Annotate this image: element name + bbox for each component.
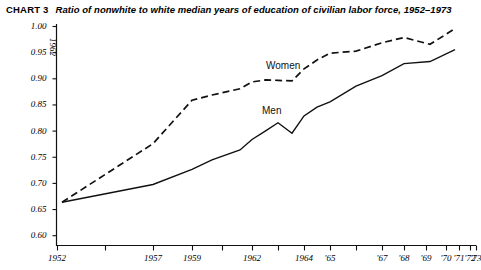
series-line-women xyxy=(62,29,455,203)
x-tick-label: '70 xyxy=(441,253,452,263)
x-tick-label: 1957 xyxy=(144,253,162,263)
y-tick-label: 0.75 xyxy=(17,152,47,162)
y-tick-label: 0.65 xyxy=(17,204,47,214)
x-axis-ticks xyxy=(58,246,477,251)
x-tick-label: '65 xyxy=(325,253,336,263)
plot-area: 1.000.950.900.850.800.750.700.650.60 195… xyxy=(0,0,481,270)
y-tick-label: 1.00 xyxy=(17,21,47,31)
x-tick-label: '71 xyxy=(454,253,465,263)
series-label-men: Men xyxy=(262,105,281,116)
x-tick-label: 1964 xyxy=(295,253,313,263)
x-tick-label: '69 xyxy=(421,253,432,263)
chart-canvas xyxy=(0,0,481,270)
chart-figure: CHART 3 Ratio of nonwhite to white media… xyxy=(0,0,481,270)
x-tick-label: '68 xyxy=(399,253,410,263)
series-line-men xyxy=(62,50,455,203)
x-tick-label: '67 xyxy=(377,253,388,263)
rotated-year-annotation: 1962 xyxy=(48,38,58,56)
y-tick-label: 0.80 xyxy=(17,126,47,136)
y-tick-label: 0.95 xyxy=(17,47,47,57)
y-tick-label: 0.90 xyxy=(17,73,47,83)
y-tick-label: 0.60 xyxy=(17,230,47,240)
series-label-women: Women xyxy=(266,60,300,71)
y-tick-label: 0.85 xyxy=(17,99,47,109)
axis-group xyxy=(57,24,477,246)
y-tick-label: 0.70 xyxy=(17,178,47,188)
x-tick-label: 1952 xyxy=(48,253,66,263)
x-tick-label: 1962 xyxy=(243,253,261,263)
x-tick-label: 1959 xyxy=(183,253,201,263)
x-tick-label: '73 xyxy=(471,253,481,263)
